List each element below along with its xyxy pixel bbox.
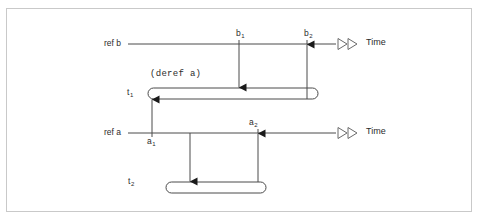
timeline-ref-a (128, 128, 357, 139)
timeline-ref-b-arrowhead-2 (348, 39, 357, 50)
axis-label-time-b: Time (366, 38, 386, 47)
event-label-a2-sub: 2 (254, 122, 257, 128)
timeline-label-ref-b: ref b (104, 39, 121, 48)
transaction-bar-t2 (166, 182, 266, 193)
event-label-a1: a1 (147, 137, 155, 146)
transaction-bar-t1 (148, 88, 318, 99)
timeline-ref-a-arrowhead-2 (348, 128, 357, 139)
transaction-label-t2-sub: 2 (131, 181, 134, 187)
transaction-label-t1: t1 (127, 88, 133, 97)
timeline-ref-a-arrowhead-1 (338, 128, 347, 139)
timeline-ref-b (128, 39, 357, 50)
timeline-ref-b-arrowhead-1 (338, 39, 347, 50)
transaction-label-t2: t2 (128, 177, 134, 186)
timeline-label-ref-a: ref a (104, 128, 121, 137)
transaction-annotation-t1: (deref a) (150, 70, 201, 79)
event-label-b2: b2 (304, 29, 312, 38)
diagram-canvas: ref b Time ref a Time b1 b2 a1 a2 t1 t2 … (0, 0, 480, 223)
event-label-b1-sub: 1 (241, 33, 244, 39)
event-label-b2-sub: 2 (309, 33, 312, 39)
transaction-label-t1-sub: 1 (130, 92, 133, 98)
event-label-b1: b1 (236, 29, 244, 38)
event-label-a2: a2 (249, 118, 257, 127)
event-label-a1-sub: 1 (152, 141, 155, 147)
axis-label-time-a: Time (366, 127, 386, 136)
